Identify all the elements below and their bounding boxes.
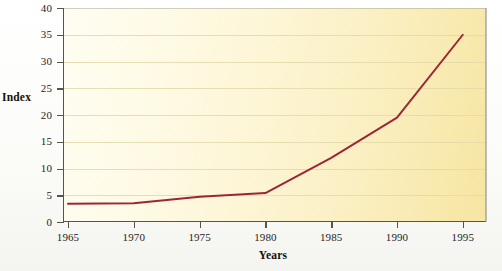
x-tick-label-1980: 1980 bbox=[238, 231, 292, 243]
y-tick-mark-0 bbox=[57, 222, 64, 223]
y-tick-mark-40 bbox=[57, 8, 64, 9]
y-tick-mark-10 bbox=[57, 169, 64, 170]
x-tick-mark-1965 bbox=[68, 222, 69, 228]
y-tick-mark-5 bbox=[57, 195, 64, 196]
y-tick-label-40: 40 bbox=[26, 3, 52, 14]
y-tick-mark-35 bbox=[57, 35, 64, 36]
gridline-5 bbox=[64, 195, 486, 196]
x-tick-mark-1985 bbox=[331, 222, 332, 228]
line-chart-figure: 40 35 30 25 20 15 10 5 0 1965 1970 1975 … bbox=[0, 0, 502, 271]
x-tick-mark-1990 bbox=[397, 222, 398, 228]
x-tick-label-1970: 1970 bbox=[107, 231, 161, 243]
y-tick-label-20: 20 bbox=[26, 110, 52, 121]
x-tick-mark-1975 bbox=[200, 222, 201, 228]
y-tick-label-30: 30 bbox=[26, 56, 52, 67]
y-tick-mark-25 bbox=[57, 88, 64, 89]
y-tick-label-15: 15 bbox=[26, 136, 52, 147]
y-axis-title: Index bbox=[2, 91, 31, 103]
x-tick-label-1965: 1965 bbox=[41, 231, 95, 243]
plot-top-border bbox=[63, 8, 486, 9]
y-tick-label-10: 10 bbox=[26, 163, 52, 174]
gridline-30 bbox=[64, 62, 486, 63]
plot-area bbox=[63, 8, 486, 222]
y-tick-label-0: 0 bbox=[26, 217, 52, 228]
plot-right-border bbox=[485, 8, 486, 222]
y-tick-label-5: 5 bbox=[26, 190, 52, 201]
x-tick-mark-1995 bbox=[463, 222, 464, 228]
x-tick-mark-1970 bbox=[134, 222, 135, 228]
x-tick-mark-1980 bbox=[265, 222, 266, 228]
y-tick-label-35: 35 bbox=[26, 29, 52, 40]
x-tick-label-1985: 1985 bbox=[304, 231, 358, 243]
gridline-15 bbox=[64, 142, 486, 143]
y-tick-mark-30 bbox=[57, 62, 64, 63]
gridline-35 bbox=[64, 35, 486, 36]
gridline-10 bbox=[64, 169, 486, 170]
y-tick-mark-20 bbox=[57, 115, 64, 116]
gridline-20 bbox=[64, 115, 486, 116]
gridline-25 bbox=[64, 88, 486, 89]
y-tick-mark-15 bbox=[57, 142, 64, 143]
x-axis-title: Years bbox=[0, 249, 502, 261]
x-tick-label-1995: 1995 bbox=[436, 231, 490, 243]
x-tick-label-1975: 1975 bbox=[173, 231, 227, 243]
x-tick-label-1990: 1990 bbox=[370, 231, 424, 243]
